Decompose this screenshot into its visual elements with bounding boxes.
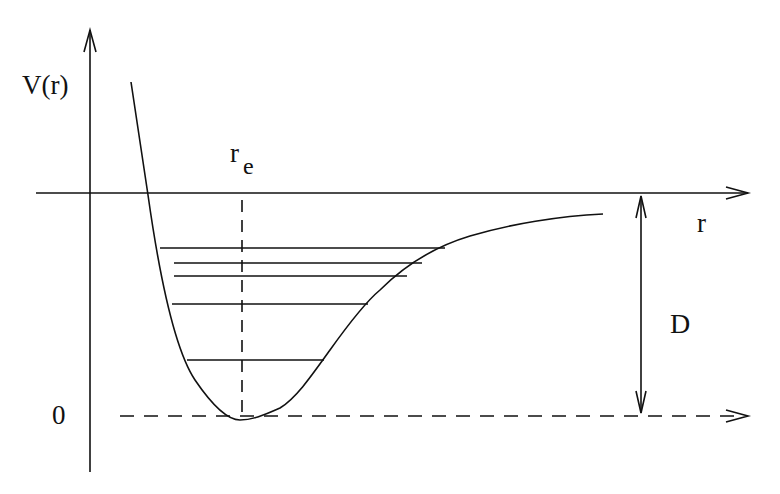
equilibrium-label-r: r	[230, 138, 239, 168]
vibrational-levels	[160, 248, 445, 360]
x-axis-label: r	[697, 210, 706, 237]
dissociation-label: D	[670, 310, 690, 338]
y-axis-label: V(r)	[22, 72, 68, 99]
potential-energy-diagram: V(r) r re D 0	[0, 0, 780, 494]
equilibrium-label-sub: e	[243, 153, 254, 179]
diagram-graphics	[0, 0, 780, 494]
equilibrium-label: re	[230, 140, 254, 167]
zero-label: 0	[52, 402, 66, 429]
potential-curve	[131, 82, 603, 420]
